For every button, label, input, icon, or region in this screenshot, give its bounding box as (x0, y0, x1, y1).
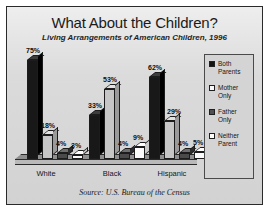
chart-subtitle: Living Arrangements of American Children… (7, 33, 262, 43)
legend-swatch-icon (209, 133, 215, 139)
bar-group-white: 75% 18% 4% 3% (27, 51, 81, 159)
bar-group-hispanic: 62% 29% 4% 5% (149, 51, 203, 159)
bar-hispanic-mother-only[interactable] (164, 121, 175, 159)
legend-swatch-icon (209, 61, 215, 67)
chart-legend: Both Parents Mother Only Father Only Nei… (204, 54, 254, 179)
bar-front-face (164, 121, 175, 159)
bar-hispanic-both-parents[interactable] (149, 77, 160, 159)
bar-front-face (72, 155, 83, 159)
legend-label: Neither Parent (218, 132, 239, 148)
legend-item-both-parents[interactable]: Both Parents (209, 60, 253, 76)
bar-front-face (57, 153, 68, 159)
bar-white-father-only[interactable] (57, 153, 68, 159)
bar-front-face (89, 115, 100, 159)
chart-frame: What About the Children? Living Arrangem… (6, 6, 263, 205)
bar-value-label: 62% (148, 64, 162, 72)
bar-value-label: 53% (103, 76, 117, 84)
bar-black-both-parents[interactable] (89, 115, 100, 159)
bar-black-neither-parent[interactable] (134, 147, 145, 159)
bar-black-mother-only[interactable] (104, 89, 115, 159)
bar-value-label: 4% (56, 140, 66, 148)
bar-white-both-parents[interactable] (27, 60, 38, 159)
legend-item-father-only[interactable]: Father Only (209, 108, 253, 124)
bar-group-black: 33% 53% 4% 9% (89, 51, 143, 159)
bar-value-label: 33% (88, 102, 102, 110)
bar-value-label: 18% (41, 122, 55, 130)
chart-title: What About the Children? (7, 14, 262, 31)
bar-hispanic-father-only[interactable] (179, 153, 190, 159)
legend-swatch-icon (209, 85, 215, 91)
bar-value-label: 4% (118, 140, 128, 148)
plot-area: 75% 18% 4% 3% (15, 51, 197, 177)
floor-front-edge (15, 159, 197, 165)
legend-label: Mother Only (218, 84, 238, 100)
bar-front-face (179, 153, 190, 159)
legend-label: Father Only (218, 108, 237, 124)
bar-front-face (27, 60, 38, 159)
legend-label: Both Parents (218, 60, 240, 76)
bar-front-face (149, 77, 160, 159)
bar-value-label: 3% (71, 142, 81, 150)
category-label-white: White (21, 169, 71, 178)
bar-white-neither-parent[interactable] (72, 155, 83, 159)
category-label-hispanic: Hispanic (145, 169, 199, 178)
bar-black-father-only[interactable] (119, 153, 130, 159)
title-block: What About the Children? Living Arrangem… (7, 14, 262, 43)
bar-white-mother-only[interactable] (42, 135, 53, 159)
bar-front-face (119, 153, 130, 159)
bar-front-face (42, 135, 53, 159)
category-label-black: Black (87, 169, 137, 178)
legend-swatch-icon (209, 109, 215, 115)
bar-value-label: 9% (133, 134, 143, 142)
bar-front-face (104, 89, 115, 159)
bar-value-label: 75% (26, 47, 40, 55)
source-note: Source: U.S. Bureau of the Census (7, 188, 262, 197)
legend-item-neither-parent[interactable]: Neither Parent (209, 132, 253, 148)
bar-value-label: 29% (167, 108, 181, 116)
bar-value-label: 4% (178, 140, 188, 148)
bar-side-face (175, 113, 180, 155)
bar-front-face (134, 147, 145, 159)
bar-value-label: 5% (193, 139, 203, 147)
legend-item-mother-only[interactable]: Mother Only (209, 84, 253, 100)
